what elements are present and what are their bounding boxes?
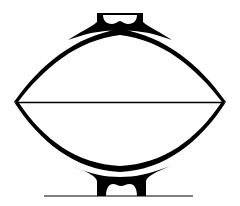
vessel-drawing-canvas (0, 0, 240, 206)
upper-wall (14, 29, 226, 102)
lower-wall (14, 102, 226, 172)
vessel-profile-svg (0, 0, 240, 206)
